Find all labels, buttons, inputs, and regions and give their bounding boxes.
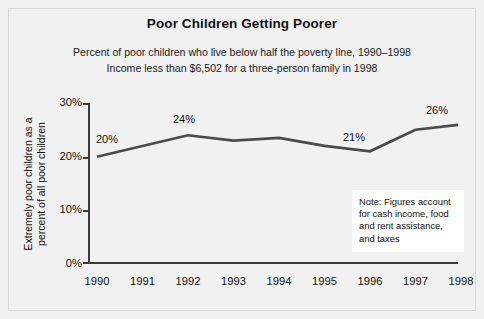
y-tick-label-30: 30% — [42, 96, 82, 108]
chart-figure: Poor Children Getting Poorer Percent of … — [0, 0, 484, 319]
y-axis-title-line-1: Extremely poor children as a — [22, 117, 34, 250]
chart-subtitle: Percent of poor children who live below … — [0, 44, 484, 76]
chart-subtitle-line-2: Income less than $6,502 for a three-pers… — [0, 60, 484, 76]
chart-note-line-2: for cash income, food — [359, 208, 458, 220]
chart-note-line-3: and rent assistance, — [359, 220, 458, 232]
y-tick-label-10: 10% — [42, 203, 82, 215]
x-tick-label-1995: 1995 — [302, 275, 348, 287]
x-tick-label-1997: 1997 — [393, 275, 439, 287]
y-tick-label-20: 20% — [42, 150, 82, 162]
x-tick-label-1994: 1994 — [256, 275, 302, 287]
x-tick-label-1991: 1991 — [120, 275, 166, 287]
y-axis-title-line-2: percent of all poor children — [35, 122, 47, 246]
x-tick-label-1998: 1998 — [438, 275, 484, 287]
data-label-1990: 20% — [96, 133, 118, 145]
chart-subtitle-line-1: Percent of poor children who live below … — [0, 44, 484, 60]
x-tick-label-1990: 1990 — [74, 275, 120, 287]
x-tick-label-1996: 1996 — [347, 275, 393, 287]
x-tick-label-1992: 1992 — [165, 275, 211, 287]
chart-note-line-1: Note: Figures account — [359, 196, 458, 208]
chart-note: Note: Figures account for cash income, f… — [352, 190, 464, 252]
chart-title: Poor Children Getting Poorer — [0, 16, 484, 31]
y-axis-title: Extremely poor children as a percent of … — [22, 104, 48, 264]
data-label-1998: 26% — [426, 104, 448, 116]
y-tick-label-0: 0% — [42, 257, 82, 269]
chart-note-line-4: and taxes — [359, 233, 458, 245]
x-tick-label-1993: 1993 — [211, 275, 257, 287]
data-label-1996: 21% — [343, 131, 365, 143]
data-label-1992: 24% — [173, 113, 195, 125]
